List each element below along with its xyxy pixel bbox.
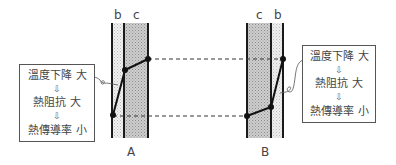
- down-arrow-icon: ⇩: [335, 93, 343, 102]
- wall-b-layer-c-label: c: [256, 9, 263, 21]
- profile-b-point-2: [268, 104, 274, 110]
- wall-b-label: B: [261, 146, 269, 158]
- annotation-box-left: 溫度下降大 ⇩ 熱阻抗大 ⇩ 熱傳導率小: [19, 64, 95, 142]
- annotation-right-line-1: 溫度下降大: [310, 51, 369, 62]
- wall-a-layer-c: [124, 23, 148, 138]
- profile-a-point-1: [110, 112, 116, 118]
- annotation-right-line-3: 熱傳導率小: [310, 106, 369, 117]
- annotation-left-line-2: 熱阻抗大: [33, 97, 81, 108]
- annotation-box-right: 溫度下降大 ⇩ 熱阻抗大 ⇩ 熱傳導率小: [302, 45, 376, 123]
- down-arrow-icon: ⇩: [335, 66, 343, 75]
- profile-b-point-3: [280, 56, 286, 62]
- annotation-right-line-2: 熱阻抗大: [315, 78, 363, 89]
- down-arrow-icon: ⇩: [53, 85, 61, 94]
- profile-a-point-2: [122, 67, 128, 73]
- wall-b-layer-b-label: b: [274, 9, 282, 21]
- wall-a-layer-c-label: c: [133, 9, 140, 21]
- profile-a-point-3: [145, 56, 151, 62]
- wall-a-label: A: [127, 146, 135, 158]
- profile-b-point-1: [244, 113, 250, 119]
- annotation-left-line-3: 熱傳導率小: [28, 125, 87, 136]
- wall-a-layer-b-label: b: [114, 9, 122, 21]
- wall-a: [112, 23, 148, 138]
- annotation-left-line-1: 溫度下降大: [28, 70, 87, 81]
- wall-b-layer-c: [247, 23, 271, 138]
- down-arrow-icon: ⇩: [53, 112, 61, 121]
